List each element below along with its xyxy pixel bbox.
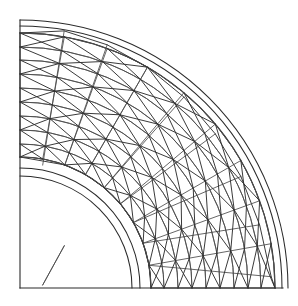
diag2-cell-3-7 [189, 224, 194, 258]
diag-cell-0-0 [20, 146, 45, 157]
diag2-cell-5-7 [217, 215, 221, 253]
diag2-cell-1-1 [47, 132, 69, 152]
mesh-spoke-40 [104, 93, 184, 188]
mesh-ring-0 [20, 157, 151, 288]
mesh-spoke-2 [43, 246, 65, 285]
inner-arc-3 [20, 157, 151, 288]
generated-mesh-group [20, 33, 275, 288]
diag2-cell-2-8 [178, 258, 189, 288]
diag2-cell-6-2 [98, 74, 127, 103]
diag-cell-7-2 [102, 62, 134, 91]
diag-cell-1-8 [164, 261, 176, 288]
diag2-cell-1-7 [162, 234, 169, 263]
diag2-cell-8-8 [261, 244, 271, 288]
diag-cell-3-5 [152, 177, 181, 195]
mesh-ring-1 [20, 144, 164, 288]
inner-boundary-arcs [20, 157, 151, 288]
diag-cell-4-3 [120, 115, 140, 146]
diag2-cell-0-8 [151, 263, 162, 288]
mesh-figure [0, 0, 298, 306]
mesh-spoke-60 [134, 177, 241, 223]
diag-cell-4-7 [203, 220, 208, 256]
diag-cell-3-2 [84, 113, 106, 139]
diag2-cell-3-3 [113, 127, 131, 156]
diag-cell-6-7 [231, 210, 235, 251]
diag-cell-8-5 [215, 124, 228, 167]
diag-cell-3-6 [181, 195, 182, 229]
mesh-spoke-10 [43, 37, 65, 159]
diag-cell-1-1 [45, 140, 74, 147]
diag-cell-7-4 [175, 103, 195, 141]
inner-arc-1 [20, 176, 132, 288]
diag-cell-2-0 [20, 119, 50, 130]
diag-cell-3-8 [192, 256, 203, 288]
diag2-cell-7-3 [141, 79, 167, 113]
diag-cell-3-1 [50, 113, 84, 118]
mesh-spoke-70 [143, 225, 260, 243]
diag-cell-8-3 [148, 67, 175, 103]
diag-cell-0-7 [149, 239, 155, 266]
diag2-cell-4-4 [149, 135, 163, 169]
mesh-ring-1 [20, 144, 164, 288]
mesh-ring-0 [20, 157, 151, 288]
diag2-cell-7-5 [205, 133, 218, 174]
diag-set-a [20, 157, 151, 288]
diag-cell-2-1 [50, 119, 74, 140]
diag-cell-2-3 [106, 139, 122, 167]
diag-cell-5-8 [220, 251, 231, 288]
diag-cell-7-8 [248, 246, 257, 288]
diag2-cell-6-4 [167, 113, 184, 150]
diag-cell-2-7 [176, 229, 182, 260]
diag2-cell-6-8 [234, 248, 245, 288]
diag-cell-1-7 [155, 239, 175, 261]
mesh-canvas [0, 0, 298, 306]
mesh-spoke-80 [149, 244, 271, 266]
